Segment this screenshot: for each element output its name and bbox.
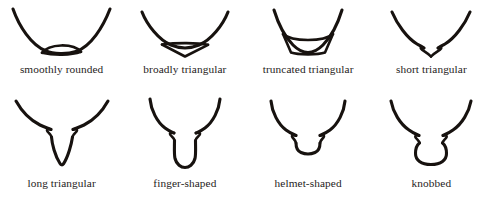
figure-label: short triangular [396,63,467,76]
truncated-triangular-shape-icon [252,4,364,60]
helmet-shaped-shape-icon [252,96,364,170]
figure-grid: smoothly rounded broadly triangular trun… [0,0,493,204]
figure-label: smoothly rounded [20,63,104,76]
figure-plate: smoothly rounded broadly triangular trun… [0,0,493,204]
figure-item-broadly-triangular: broadly triangular [123,4,246,96]
long-triangular-shape-icon [6,96,118,170]
figure-label: truncated triangular [263,63,354,76]
figure-label: finger-shaped [153,177,216,190]
finger-shaped-shape-icon [129,96,241,170]
figure-label: knobbed [412,177,452,190]
figure-label: broadly triangular [143,63,226,76]
knobbed-shape-icon [375,96,487,170]
short-triangular-shape-icon [375,4,487,60]
figure-label: long triangular [27,177,95,190]
figure-label: helmet-shaped [275,177,342,190]
figure-item-knobbed: knobbed [370,96,493,204]
figure-item-helmet-shaped: helmet-shaped [247,96,370,204]
smoothly-rounded-shape-icon [6,4,118,60]
figure-item-finger-shaped: finger-shaped [123,96,246,204]
broadly-triangular-shape-icon [129,4,241,60]
figure-item-truncated-triangular: truncated triangular [247,4,370,96]
figure-item-smoothly-rounded: smoothly rounded [0,4,123,96]
figure-item-long-triangular: long triangular [0,96,123,204]
figure-item-short-triangular: short triangular [370,4,493,96]
